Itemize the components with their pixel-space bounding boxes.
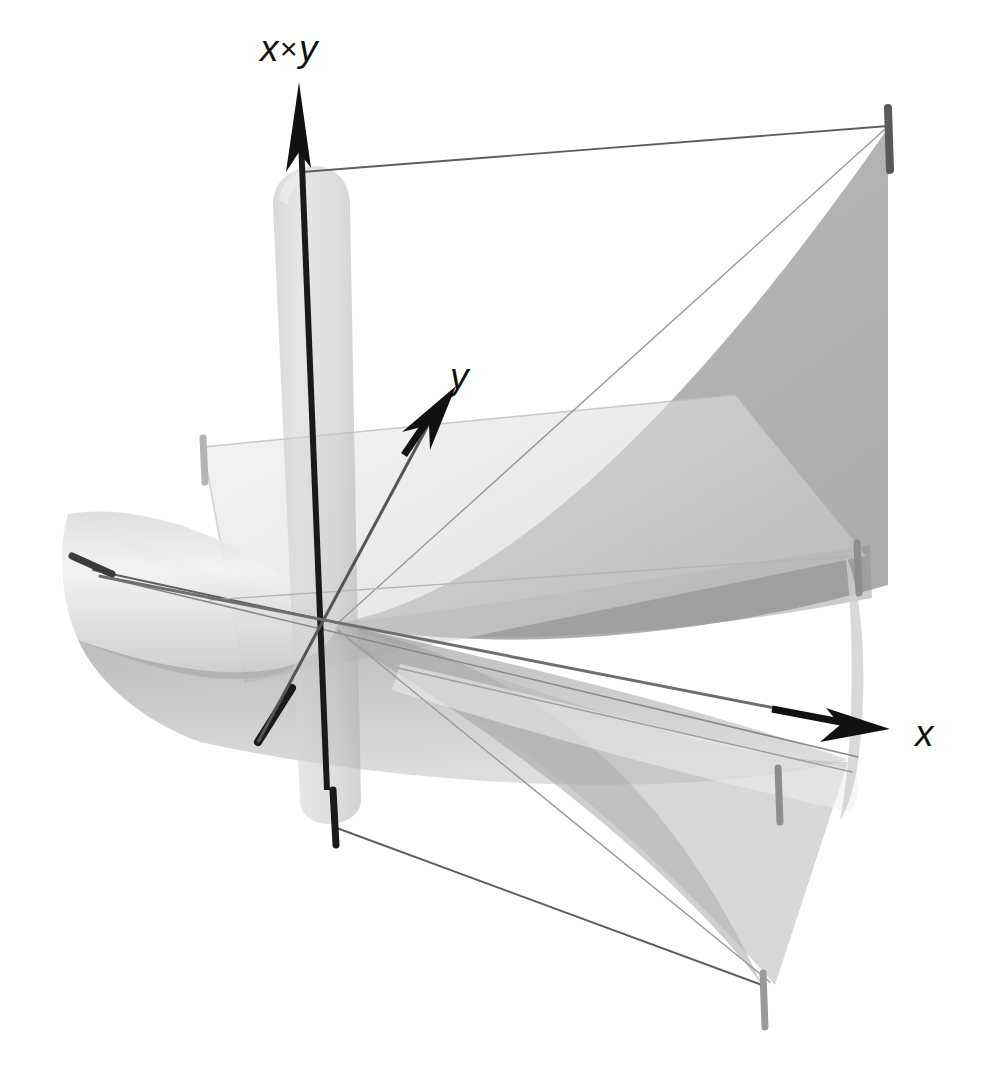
figure-root: x×y y x	[0, 0, 986, 1070]
corner-post-back-left	[203, 438, 205, 482]
corner-post-front-right-lower	[778, 768, 780, 822]
corner-post-front-right-upper	[857, 543, 859, 593]
axis-label-x: x	[915, 715, 934, 752]
corner-post-back-right	[888, 108, 890, 170]
cross-product-icon: ×	[279, 32, 299, 65]
edge-top-back	[302, 126, 888, 172]
axis-label-z-x: x	[260, 28, 279, 69]
axis-label-y: y	[450, 358, 469, 395]
figure-svg	[0, 0, 986, 1070]
axis-label-z-y: y	[299, 28, 318, 69]
tick-negative-z	[333, 790, 336, 845]
axis-label-z: x×y	[260, 30, 318, 67]
axis-z-arrowhead	[286, 82, 311, 172]
corner-post-front-bottom	[763, 973, 765, 1027]
